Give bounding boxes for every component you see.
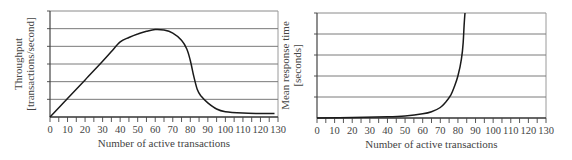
- x-tick-label: 40: [382, 125, 393, 136]
- throughput-chart: 0102030405060708090100110120130Number of…: [12, 11, 286, 149]
- x-tick-label: 50: [400, 125, 411, 136]
- data-line: [50, 29, 275, 117]
- x-tick-label: 30: [365, 125, 376, 136]
- y-axis-title: Mean response time[seconds]: [279, 21, 303, 110]
- x-tick-label: 20: [80, 124, 91, 135]
- x-tick-label: 60: [150, 124, 161, 135]
- y-axis-title: Throughput[transactions/second]: [12, 17, 36, 110]
- response-time-chart: 0102030405060708090100110120130Number of…: [279, 13, 554, 150]
- x-tick-label: 60: [417, 125, 428, 136]
- data-line: [317, 13, 465, 118]
- x-tick-label: 30: [97, 124, 108, 135]
- x-tick-label: 70: [435, 125, 446, 136]
- x-tick-label: 90: [470, 125, 481, 136]
- x-tick-label: 130: [270, 124, 286, 135]
- x-axis-title: Number of active transactions: [365, 138, 497, 150]
- charts-canvas: 0102030405060708090100110120130Number of…: [0, 0, 572, 160]
- x-tick-label: 0: [314, 125, 319, 136]
- x-axis-title: Number of active transactions: [98, 137, 230, 149]
- x-tick-label: 80: [185, 124, 196, 135]
- x-tick-label: 40: [115, 124, 126, 135]
- x-tick-label: 130: [538, 125, 554, 136]
- x-tick-label: 50: [132, 124, 143, 135]
- x-tick-label: 110: [503, 125, 518, 136]
- x-tick-label: 120: [253, 124, 269, 135]
- x-tick-label: 100: [485, 125, 501, 136]
- x-tick-label: 10: [62, 124, 73, 135]
- x-tick-label: 20: [347, 125, 358, 136]
- x-tick-label: 120: [521, 125, 537, 136]
- x-tick-label: 10: [329, 125, 340, 136]
- x-tick-label: 0: [47, 124, 52, 135]
- x-tick-label: 90: [203, 124, 214, 135]
- x-tick-label: 110: [235, 124, 250, 135]
- x-tick-label: 100: [218, 124, 234, 135]
- x-tick-label: 80: [453, 125, 464, 136]
- x-tick-label: 70: [168, 124, 179, 135]
